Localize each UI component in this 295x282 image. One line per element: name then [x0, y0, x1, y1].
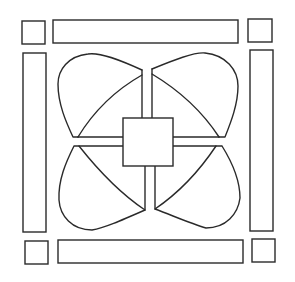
bar-left	[23, 53, 46, 232]
corner-square-bottom-left	[25, 241, 48, 264]
tile-figure	[0, 0, 295, 282]
bar-bottom	[58, 240, 243, 263]
bar-top	[53, 20, 238, 43]
center-square	[123, 118, 173, 166]
corner-square-bottom-right	[252, 239, 275, 262]
bar-right	[250, 50, 273, 231]
corner-square-top-left	[22, 21, 45, 44]
corner-square-top-right	[248, 19, 272, 42]
